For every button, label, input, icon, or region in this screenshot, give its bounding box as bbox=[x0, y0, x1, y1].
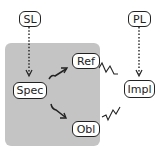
node-impl: Impl bbox=[124, 80, 155, 98]
spec-to-ref-edge bbox=[49, 69, 66, 79]
node-ref: Ref bbox=[72, 53, 100, 69]
spec-to-obl-edge bbox=[51, 104, 65, 117]
node-pl: PL bbox=[128, 11, 151, 27]
ref-to-impl-squiggle bbox=[99, 63, 118, 74]
obl-to-impl-squiggle bbox=[102, 107, 120, 120]
node-spec: Spec bbox=[13, 82, 47, 99]
node-sl: SL bbox=[19, 11, 41, 27]
node-obl: Obl bbox=[72, 121, 100, 137]
